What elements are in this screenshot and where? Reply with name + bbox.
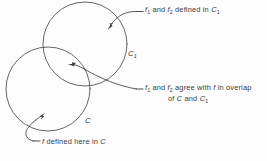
c-subscript-1: 1	[217, 9, 220, 15]
agree-with-words: agree with	[173, 83, 213, 92]
figure-container: C1 C f1 and f2 defined in C1 f1 and f2 a…	[0, 0, 267, 161]
upper-circle-c1	[43, 2, 127, 86]
circle-label-c1: C1	[128, 50, 137, 59]
f-subscript-4: 2	[170, 87, 173, 93]
annotation-f-defined-here: f defined here in C	[42, 138, 106, 147]
arrowhead-top	[108, 23, 114, 30]
f-subscript-1: 1	[147, 9, 150, 15]
arrowhead-middle	[68, 62, 76, 66]
circle-label-c1-letter: C	[128, 49, 134, 58]
and-word-3: and	[182, 94, 199, 103]
arrowhead-bottom	[40, 112, 46, 119]
f-subscript-3: 1	[147, 87, 150, 93]
c-subscript-2: 1	[205, 98, 208, 104]
circle-label-c: C	[85, 117, 91, 126]
and-word-2: and	[150, 83, 167, 92]
lower-circle-c	[6, 47, 90, 131]
defined-in-words: defined in	[173, 5, 211, 14]
circle-label-c-letter: C	[85, 116, 91, 125]
of-word: of	[168, 94, 177, 103]
and-word-1: and	[150, 5, 167, 14]
diagram-canvas	[0, 0, 267, 161]
f-subscript-2: 2	[170, 9, 173, 15]
c-symbol-4: C	[100, 137, 106, 146]
annotation-agree-overlap-line1: f1 and f2 agree with f in overlap	[145, 84, 252, 93]
c-symbol-1: C	[211, 5, 217, 14]
defined-here-words: defined here in	[44, 137, 100, 146]
arrow-curve-middle	[73, 64, 137, 89]
in-overlap-words: in overlap	[215, 83, 251, 92]
circle-label-c1-subscript: 1	[134, 53, 137, 59]
annotation-agree-overlap-line2: of C and C1	[168, 95, 208, 104]
annotation-defined-in-c1: f1 and f2 defined in C1	[145, 6, 220, 15]
